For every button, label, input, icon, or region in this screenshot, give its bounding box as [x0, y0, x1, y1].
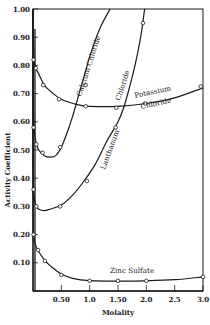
y-tick-label: 0.20: [13, 230, 30, 239]
x-tick-label: 1.0: [84, 295, 96, 304]
data-point-potassium-chloride: [84, 104, 88, 108]
data-point-potassium-chloride: [57, 97, 61, 101]
y-tick-label: 0.10: [13, 258, 30, 267]
data-point-lanthanum-chloride: [58, 205, 62, 209]
data-point-potassium-chloride: [34, 66, 38, 70]
y-tick-label: 0.70: [13, 89, 30, 98]
data-point-lanthanum-chloride: [114, 126, 118, 130]
data-point-potassium-chloride: [32, 58, 36, 62]
data-point-zinc-sulfate: [116, 279, 120, 283]
data-point-calcium-chloride: [58, 145, 62, 149]
y-tick-label: 0.40: [13, 174, 30, 183]
x-axis-ticks: 0.501.01.502.02.53.0: [53, 285, 209, 304]
plot-frame: [33, 9, 203, 291]
data-point-potassium-chloride: [41, 83, 45, 87]
y-tick-label: 0.80: [13, 61, 30, 70]
x-tick-label: 1.50: [109, 295, 126, 304]
data-point-zinc-sulfate: [145, 279, 149, 283]
activity-coefficient-chart: 0.100.200.300.400.500.600.700.800.901.00…: [0, 0, 210, 325]
data-point-calcium-chloride: [41, 151, 45, 155]
data-point-zinc-sulfate: [43, 259, 47, 263]
data-markers: [32, 21, 205, 282]
data-point-zinc-sulfate: [32, 233, 36, 237]
data-point-zinc-sulfate: [36, 248, 40, 252]
y-tick-label: 0.60: [13, 117, 30, 126]
x-tick-label: 2.5: [169, 295, 181, 304]
data-point-calcium-chloride: [32, 126, 36, 130]
curve-label-chloride-upper: Chloride: [113, 69, 131, 102]
y-tick-label: 0.50: [13, 146, 30, 155]
y-tick-label: 0.30: [13, 202, 30, 211]
data-point-zinc-sulfate: [201, 275, 205, 279]
data-point-lanthanum-chloride: [32, 188, 36, 192]
y-axis-title: Activity Coefficient: [3, 132, 12, 209]
x-tick-label: 3.0: [197, 295, 209, 304]
curves: [33, 9, 203, 281]
y-tick-label: 1.00: [13, 5, 30, 14]
data-point-potassium-chloride: [115, 106, 119, 110]
curve-label-calcium-chloride: Calcium Chloride: [74, 34, 102, 97]
x-tick-label: 0.50: [53, 295, 70, 304]
data-point-lanthanum-chloride: [141, 21, 145, 25]
y-tick-label: 0.90: [13, 33, 30, 42]
y-axis-ticks: 0.100.200.300.400.500.600.700.800.901.00: [13, 5, 38, 268]
curve-calcium-chloride: [33, 9, 110, 157]
plot-border: [33, 9, 203, 291]
curve-label-lanthanum: Lanthanum: [98, 128, 121, 170]
data-point-lanthanum-chloride: [85, 179, 89, 183]
data-point-zinc-sulfate: [60, 273, 64, 277]
data-point-calcium-chloride: [35, 143, 39, 147]
data-point-lanthanum-chloride: [35, 205, 39, 209]
x-axis-title: Molality: [102, 308, 135, 317]
data-point-potassium-chloride: [199, 85, 203, 89]
data-point-zinc-sulfate: [88, 279, 92, 283]
x-tick-label: 2.0: [140, 295, 152, 304]
curve-label-zinc-sulfate: Zinc Sulfate: [110, 266, 154, 275]
